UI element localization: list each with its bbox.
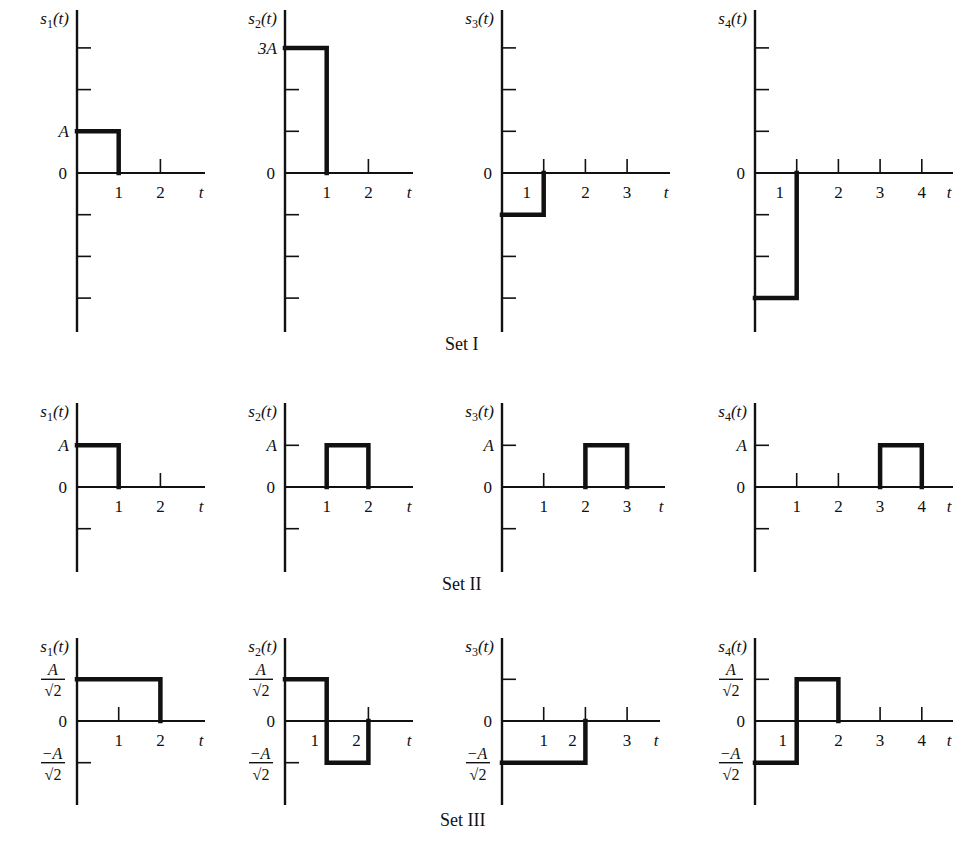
function-name-label: s1(t)	[40, 637, 69, 659]
a-over-root2-label: A√2	[41, 661, 65, 699]
x-axis-label: t	[199, 731, 205, 750]
x-tick-label: 1	[114, 497, 123, 516]
zero-label: 0	[737, 164, 746, 183]
x-tick-label: 2	[156, 497, 165, 516]
plot-s1: 12t0A√2−A√2s1(t)	[40, 637, 205, 805]
x-tick-label: 1	[522, 183, 531, 202]
x-tick-label: 2	[834, 731, 843, 750]
waveform	[285, 48, 327, 173]
neg-a-over-root2-label: −A√2	[719, 745, 743, 783]
neg-a-over-root2-label: −A√2	[466, 745, 490, 783]
plot-s4: 1234t0A√2−A√2s4(t)	[718, 637, 953, 805]
zero-label: 0	[59, 164, 68, 183]
fraction-denominator: √2	[723, 766, 740, 783]
waveform	[880, 445, 922, 487]
plot-s2: 12t0A√2−A√2s2(t)	[248, 637, 413, 805]
waveform	[77, 445, 119, 487]
y-value-label: A	[266, 436, 278, 455]
x-tick-label: 3	[876, 497, 885, 516]
neg-a-over-root2-label: −A√2	[41, 745, 65, 783]
neg-a-over-root2-label: −A√2	[249, 745, 273, 783]
a-over-root2-label: A√2	[719, 661, 743, 699]
x-tick-label: 2	[581, 497, 590, 516]
zero-label: 0	[737, 712, 746, 731]
x-axis-label: t	[947, 183, 953, 202]
y-value-label: A	[58, 436, 70, 455]
zero-label: 0	[484, 164, 493, 183]
x-tick-label: 4	[918, 183, 927, 202]
function-name-label: s3(t)	[465, 402, 494, 424]
x-axis-label: t	[199, 497, 205, 516]
x-tick-label: 1	[539, 731, 548, 750]
x-tick-label: 1	[539, 497, 548, 516]
x-tick-label: 2	[364, 183, 373, 202]
plot-s3: 123t0s3(t)	[465, 9, 670, 332]
x-tick-label: 1	[114, 731, 123, 750]
x-tick-label: 4	[918, 497, 927, 516]
x-tick-label: 3	[623, 497, 632, 516]
x-tick-label: 2	[581, 183, 590, 202]
waveform	[77, 131, 119, 173]
set-label: Set III	[440, 810, 485, 830]
fraction-denominator: √2	[45, 766, 62, 783]
zero-label: 0	[484, 712, 493, 731]
x-axis-label: t	[654, 731, 660, 750]
zero-label: 0	[59, 478, 68, 497]
function-name-label: s3(t)	[465, 9, 494, 31]
waveform	[327, 445, 369, 487]
x-tick-label: 1	[114, 183, 123, 202]
x-axis-label: t	[407, 497, 413, 516]
x-tick-label: 1	[778, 731, 787, 750]
y-value-label: A	[736, 436, 748, 455]
x-tick-label: 3	[876, 183, 885, 202]
x-tick-label: 1	[322, 497, 331, 516]
plot-s3: 123t0−A√2s3(t)	[465, 637, 660, 805]
plot-s1: 12t0As1(t)	[40, 9, 205, 332]
function-name-label: s4(t)	[718, 637, 747, 659]
function-name-label: s2(t)	[248, 9, 277, 31]
x-tick-label: 3	[623, 183, 632, 202]
waveform	[585, 445, 627, 487]
fraction-denominator: √2	[45, 682, 62, 699]
a-over-root2-label: A√2	[249, 661, 273, 699]
x-tick-label: 1	[792, 497, 801, 516]
x-axis-label: t	[407, 183, 413, 202]
plot-s4: 1234t0s4(t)	[718, 9, 953, 332]
x-tick-label: 1	[775, 183, 784, 202]
x-tick-label: 3	[876, 731, 885, 750]
signal-set-3: 12t0A√2−A√2s1(t)12t0A√2−A√2s2(t)123t0−A√…	[40, 637, 953, 830]
x-tick-label: 3	[623, 731, 632, 750]
fraction-denominator: √2	[723, 682, 740, 699]
x-tick-label: 2	[352, 731, 361, 750]
x-axis-label: t	[407, 731, 413, 750]
signal-set-2: 12t0As1(t)12t0As2(t)123t0As3(t)1234t0As4…	[40, 402, 953, 594]
plot-s2: 12t03As2(t)	[248, 9, 413, 332]
x-tick-label: 2	[156, 731, 165, 750]
y-value-label: A	[58, 122, 70, 141]
plot-s1: 12t0As1(t)	[40, 402, 205, 572]
function-name-label: s4(t)	[718, 9, 747, 31]
function-name-label: s3(t)	[465, 637, 494, 659]
x-tick-label: 2	[156, 183, 165, 202]
function-name-label: s2(t)	[248, 637, 277, 659]
set-label: Set II	[442, 574, 482, 594]
fraction-denominator: √2	[470, 766, 487, 783]
plot-s4: 1234t0As4(t)	[718, 402, 953, 572]
x-tick-label: 2	[834, 183, 843, 202]
fraction-numerator: −A	[467, 745, 488, 762]
fraction-numerator: A	[47, 661, 58, 678]
fraction-numerator: −A	[720, 745, 741, 762]
x-axis-label: t	[947, 497, 953, 516]
y-value-label: 3A	[257, 39, 278, 58]
fraction-numerator: A	[255, 661, 266, 678]
function-name-label: s1(t)	[40, 402, 69, 424]
x-tick-label: 2	[834, 497, 843, 516]
fraction-numerator: −A	[42, 745, 63, 762]
x-axis-label: t	[199, 183, 205, 202]
fraction-numerator: −A	[250, 745, 271, 762]
zero-label: 0	[737, 478, 746, 497]
x-tick-label: 2	[568, 731, 577, 750]
signal-sets-figure: 12t0As1(t)12t03As2(t)123t0s3(t)1234t0s4(…	[0, 0, 976, 862]
y-value-label: A	[483, 436, 495, 455]
fraction-denominator: √2	[253, 682, 270, 699]
